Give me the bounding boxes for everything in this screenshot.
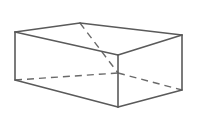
figure-canvas [0, 0, 201, 122]
rectangular-prism-drawing [0, 0, 201, 122]
